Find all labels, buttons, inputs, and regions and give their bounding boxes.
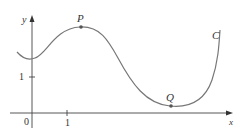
y-axis-label: y [22, 15, 26, 25]
x-axis-arrow-icon [226, 111, 233, 116]
curve-c [17, 27, 220, 106]
x-axis-label: x [229, 118, 233, 127]
curve-label: C [212, 30, 219, 41]
point-p-marker [79, 25, 83, 29]
point-q-label: Q [166, 92, 174, 103]
y-axis-arrow-icon [30, 15, 35, 22]
point-q-marker [169, 104, 173, 108]
x-tick-label: 1 [65, 118, 70, 128]
point-p-label: P [77, 13, 84, 24]
function-graph-figure: y x 0 1 1 P Q C [0, 0, 240, 136]
y-tick-label: 1 [19, 72, 24, 82]
graph-canvas [0, 0, 240, 136]
origin-label: 0 [24, 117, 29, 127]
